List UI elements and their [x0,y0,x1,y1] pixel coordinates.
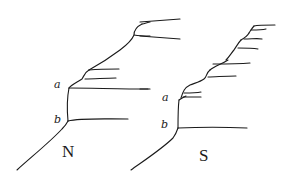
cross-section-drawing [0,0,293,180]
north-point-a-label: a [54,79,61,90]
north-panel-label: N [62,143,74,160]
south-point-a-label: a [162,92,169,103]
north-strata-extension [140,19,180,89]
north-point-b-label: b [54,114,61,125]
south-panel-label: S [199,147,208,164]
north-profile [17,22,150,170]
diagram-canvas: a b N a b S [0,0,293,180]
south-point-b-label: b [161,119,168,130]
